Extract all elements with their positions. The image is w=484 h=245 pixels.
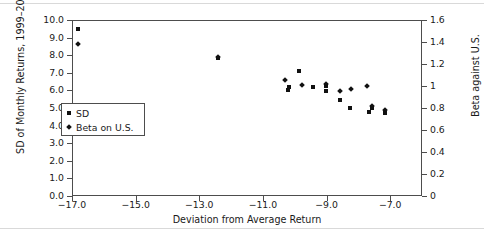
y-axis-right-tick-label: 0.8 [430, 103, 445, 113]
y-axis-left-tick-label: 10.0 [43, 15, 64, 25]
y-axis-right-tick-label: 1.2 [430, 59, 445, 69]
y-axis-left-tick-label: 2.0 [49, 156, 64, 166]
x-axis-tick-label: −11.0 [238, 199, 288, 210]
data-point-sd [311, 85, 315, 89]
data-point-sd [348, 106, 352, 110]
y-axis-right-tick [422, 174, 427, 175]
x-axis-tick-label: −9.0 [302, 199, 352, 210]
y-axis-left-tick-label: 1.0 [49, 173, 64, 183]
data-point-beta [282, 78, 288, 84]
y-axis-right-tick-label: 1 [430, 81, 436, 91]
x-axis-tick-label: −13.0 [174, 199, 224, 210]
data-point-sd [324, 89, 328, 93]
y-axis-right-tick [422, 20, 427, 21]
y-axis-right-tick [422, 86, 427, 87]
y-axis-right-tick [422, 152, 427, 153]
y-axis-right-tick [422, 64, 427, 65]
diamond-marker-icon [66, 124, 72, 130]
y-axis-right-tick-label: 0.2 [430, 169, 445, 179]
y-axis-right-tick-label: 1.4 [430, 37, 445, 47]
legend-item-sd: SD [67, 106, 144, 120]
legend: SD Beta on U.S. [61, 103, 145, 136]
data-point-sd [367, 110, 371, 114]
data-point-beta [364, 83, 370, 89]
data-point-beta [349, 86, 355, 92]
y-axis-right-tick-label: 0.6 [430, 125, 445, 135]
y-axis-left-title: SD of Monthly Returns, 1999–2008 [15, 0, 26, 171]
y-axis-left-tick-label: 3.0 [49, 138, 64, 148]
x-axis-tick-label: −17.0 [47, 199, 97, 210]
top-divider-rule [0, 3, 484, 4]
y-axis-right-tick [422, 108, 427, 109]
square-marker-icon [67, 111, 71, 115]
data-point-sd [338, 98, 342, 102]
x-axis-tick-label: −7.0 [365, 199, 415, 210]
figure: SD of Monthly Returns, 1999–2008 Beta ag… [0, 0, 484, 245]
data-point-beta [337, 89, 343, 95]
legend-item-label: SD [76, 108, 89, 119]
legend-item-label: Beta on U.S. [76, 122, 134, 133]
data-point-beta [299, 82, 305, 88]
data-point-sd [76, 27, 80, 31]
y-axis-left-tick-label: 7.0 [49, 68, 64, 78]
y-axis-right-tick [422, 130, 427, 131]
x-axis-title: Deviation from Average Return [72, 214, 422, 225]
y-axis-left-tick-label: 6.0 [49, 85, 64, 95]
data-point-beta [75, 41, 81, 47]
x-axis-tick-label: −15.0 [111, 199, 161, 210]
y-axis-right-tick-label: 1.6 [430, 15, 445, 25]
y-axis-right-title: Beta against U.S. [470, 0, 481, 166]
y-axis-left-tick-label: 8.0 [49, 50, 64, 60]
y-axis-left-tick-label: 9.0 [49, 33, 64, 43]
legend-item-beta: Beta on U.S. [67, 120, 144, 134]
y-axis-right-tick [422, 42, 427, 43]
data-point-sd [287, 85, 291, 89]
y-axis-right-tick-label: 0 [430, 191, 436, 201]
bottom-divider-rule [0, 228, 484, 229]
y-axis-right-tick-label: 0.4 [430, 147, 445, 157]
y-axis-right-tick [422, 196, 427, 197]
data-point-sd [297, 69, 301, 73]
